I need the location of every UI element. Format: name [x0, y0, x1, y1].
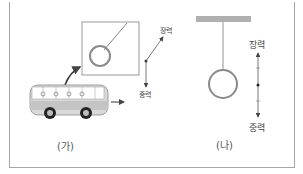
- force-vectors-b: [256, 53, 260, 117]
- zoom-arrow: [65, 67, 80, 85]
- bus: [30, 85, 108, 119]
- caption-a: (가): [57, 138, 74, 153]
- diagram-canvas: [0, 0, 303, 174]
- gravity-label-a: 중력: [139, 89, 151, 99]
- gravity-label-b: 중력: [249, 121, 265, 134]
- tension-label-a: 장력: [160, 25, 172, 35]
- tension-label-b: 장력: [249, 38, 265, 51]
- ceiling: [196, 16, 251, 22]
- force-vectors-a: [145, 37, 164, 87]
- ring: [209, 70, 237, 98]
- caption-b: (나): [216, 137, 233, 152]
- inset-box: [82, 22, 139, 75]
